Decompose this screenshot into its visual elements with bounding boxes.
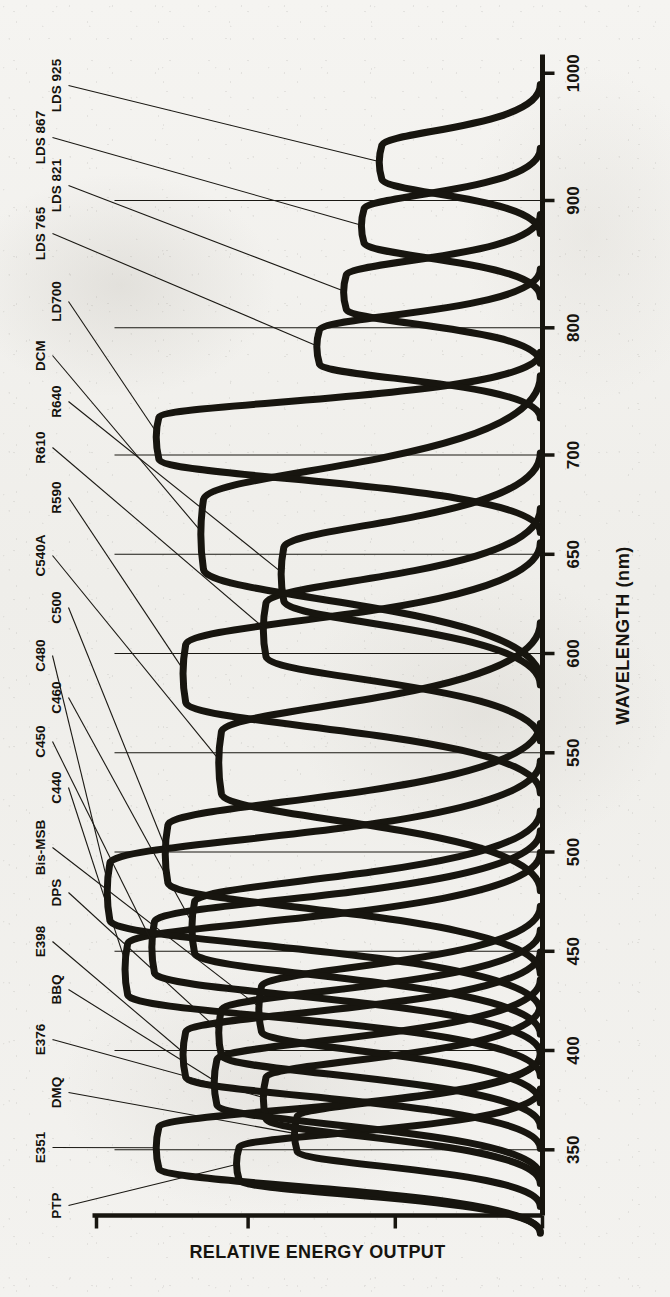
dye-label-E398: E398 xyxy=(32,925,47,957)
x-tick-label-1000: 1000 xyxy=(563,54,582,92)
dye-label-PTP: PTP xyxy=(48,1192,63,1218)
dye-label-R640: R640 xyxy=(48,385,63,417)
leader-LDS867 xyxy=(52,137,364,226)
y-axis-title: RELATIVE ENERGY OUTPUT xyxy=(189,1241,445,1261)
leader-LDS765 xyxy=(52,233,319,346)
x-axis-tick-labels: 3504004505005506006507008009001000 xyxy=(563,54,582,1164)
dye-label-C500: C500 xyxy=(48,591,63,623)
dye-label-C540A: C540A xyxy=(32,534,47,576)
x-tick-label-600: 600 xyxy=(563,639,582,667)
leader-C540A xyxy=(52,555,221,762)
dye-annotation-labels: PTPE351DMQE376BBQE398DPSBis-MSBC440C450C… xyxy=(32,58,63,1218)
chart-axes xyxy=(92,54,554,1228)
x-tick-label-450: 450 xyxy=(563,937,582,965)
curve-LDS-821 xyxy=(343,214,540,363)
dye-label-E351: E351 xyxy=(32,1131,47,1163)
dye-label-LDS867: LDS 867 xyxy=(32,110,47,163)
leader-LDS925 xyxy=(68,85,381,162)
emission-curves xyxy=(107,84,540,1233)
dye-label-R610: R610 xyxy=(32,431,47,463)
dye-label-C480: C480 xyxy=(32,639,47,671)
x-tick-label-350: 350 xyxy=(563,1135,582,1163)
dye-label-LD700: LD700 xyxy=(48,281,63,322)
x-tick-label-800: 800 xyxy=(563,313,582,341)
dye-label-C460: C460 xyxy=(48,681,63,713)
curve-LDS-867 xyxy=(361,148,540,297)
dye-label-DMQ: DMQ xyxy=(48,1076,63,1108)
leader-E376 xyxy=(52,1039,266,1098)
x-tick-label-500: 500 xyxy=(563,837,582,865)
x-tick-label-900: 900 xyxy=(563,186,582,214)
dye-label-Bis-MSB: Bis-MSB xyxy=(32,819,47,875)
dye-emission-spectra-chart: PTPE351DMQE376BBQE398DPSBis-MSBC440C450C… xyxy=(0,0,670,1297)
leader-E398 xyxy=(52,941,185,1054)
x-axis-title: WAVELENGTH (nm) xyxy=(612,546,632,725)
dye-label-R590: R590 xyxy=(48,481,63,513)
leader-R640 xyxy=(68,401,283,574)
x-tick-label-550: 550 xyxy=(563,738,582,766)
leader-C440 xyxy=(68,787,127,969)
x-tick-label-700: 700 xyxy=(563,440,582,468)
dye-label-E376: E376 xyxy=(32,1023,47,1055)
dye-label-DPS: DPS xyxy=(48,878,63,906)
rotated-chart-stage: PTPE351DMQE376BBQE398DPSBis-MSBC440C450C… xyxy=(0,0,670,1297)
dye-label-C450: C450 xyxy=(32,725,47,757)
curve-R610 xyxy=(263,508,540,740)
leader-LD700 xyxy=(68,301,158,436)
dye-label-LDS765: LDS 765 xyxy=(32,206,47,260)
curve-LDS-925 xyxy=(379,84,540,233)
dye-label-BBQ: BBQ xyxy=(48,974,63,1004)
x-tick-label-650: 650 xyxy=(563,540,582,568)
dye-label-DCM: DCM xyxy=(32,340,47,371)
dye-label-LDS925: LDS 925 xyxy=(48,58,63,112)
x-tick-label-400: 400 xyxy=(563,1036,582,1064)
dye-label-C440: C440 xyxy=(48,771,63,803)
leader-C450 xyxy=(52,741,154,947)
leader-C500 xyxy=(68,607,167,854)
dye-label-LDS821: LDS 821 xyxy=(48,158,63,212)
leader-PTP xyxy=(68,1163,239,1205)
curve-LD700 xyxy=(156,352,540,532)
